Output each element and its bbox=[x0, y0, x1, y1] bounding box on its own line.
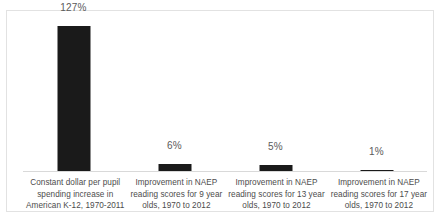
category-label-1: Constant dollar per pupil spending incre… bbox=[23, 177, 127, 221]
chart-frame: 127% 6% 5% 1% Con bbox=[6, 10, 434, 212]
category-label-4-line-2: reading scores for 17 year bbox=[331, 189, 427, 201]
bar-column-1[interactable]: 127% bbox=[23, 11, 124, 172]
category-label-4: Improvement in NAEP reading scores for 1… bbox=[328, 177, 430, 221]
category-label-1-line-3: American K-12, 1970-2011 bbox=[26, 200, 124, 212]
category-label-1-line-2: spending increase in bbox=[26, 189, 124, 201]
bar-value-label-4: 1% bbox=[326, 146, 427, 158]
bar-column-4[interactable]: 1% bbox=[326, 11, 427, 172]
category-axis-line bbox=[23, 171, 427, 172]
category-label-3-line-1: Improvement in NAEP bbox=[228, 177, 324, 189]
category-label-3-line-3: olds, 1970 to 2012 bbox=[228, 200, 324, 212]
category-label-4-line-1: Improvement in NAEP bbox=[331, 177, 427, 189]
bar-value-label-3: 5% bbox=[225, 141, 326, 153]
bar-rect-1[interactable] bbox=[57, 26, 90, 171]
bar-chart: 127% 6% 5% 1% Con bbox=[0, 0, 442, 221]
bar-column-2[interactable]: 6% bbox=[124, 11, 225, 172]
category-label-3-line-2: reading scores for 13 year bbox=[228, 189, 324, 201]
category-label-2-line-1: Improvement in NAEP bbox=[130, 177, 222, 189]
bar-rect-2[interactable] bbox=[158, 164, 191, 171]
category-label-4-line-3: olds, 1970 to 2012 bbox=[331, 200, 427, 212]
plot-area: 127% 6% 5% 1% bbox=[7, 11, 433, 172]
category-label-1-line-1: Constant dollar per pupil bbox=[26, 177, 124, 189]
category-label-2-line-3: olds, 1970 to 2012 bbox=[130, 200, 222, 212]
category-label-2-line-2: reading scores for 9 year bbox=[130, 189, 222, 201]
bar-series: 127% 6% 5% 1% bbox=[23, 11, 427, 172]
bar-value-label-2: 6% bbox=[124, 140, 225, 152]
category-axis-labels: Constant dollar per pupil spending incre… bbox=[23, 177, 427, 221]
bar-value-label-1: 127% bbox=[23, 2, 124, 14]
category-label-3: Improvement in NAEP reading scores for 1… bbox=[225, 177, 327, 221]
category-label-2: Improvement in NAEP reading scores for 9… bbox=[127, 177, 225, 221]
bar-column-3[interactable]: 5% bbox=[225, 11, 326, 172]
